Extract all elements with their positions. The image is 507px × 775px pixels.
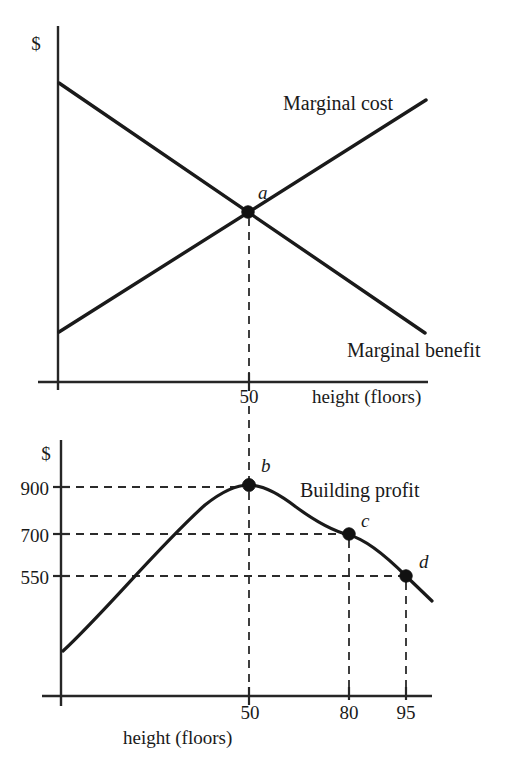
marginal-cost-label: Marginal cost <box>283 92 394 115</box>
building-profit-label: Building profit <box>300 479 420 502</box>
bottom-chart-panel: $ 900 700 550 b c d <box>21 440 433 749</box>
bottom-chart-tick-50-label: 50 <box>241 702 260 723</box>
top-chart-x-axis-caption: height (floors) <box>312 386 421 408</box>
top-chart-y-axis-unit: $ <box>31 33 41 54</box>
top-chart-tick-50-label: 50 <box>240 386 259 407</box>
bottom-chart-tick-550-label: 550 <box>21 567 50 588</box>
bottom-chart-y-axis-unit: $ <box>41 443 51 464</box>
building-profit-curve <box>63 485 432 651</box>
point-b-label: b <box>261 455 271 476</box>
point-c-dot <box>343 528 355 540</box>
point-a-dot <box>242 206 254 218</box>
point-b-dot <box>243 479 256 492</box>
point-a-label: a <box>258 182 268 203</box>
bottom-chart-tick-80-label: 80 <box>340 702 359 723</box>
figure-root: $ a 50 height (floors) Marginal cost Mar… <box>0 0 507 775</box>
bottom-chart-tick-700-label: 700 <box>21 525 50 546</box>
economics-diagram: $ a 50 height (floors) Marginal cost Mar… <box>0 0 507 775</box>
bottom-chart-x-axis-caption: height (floors) <box>123 727 232 749</box>
bottom-chart-tick-95-label: 95 <box>397 702 416 723</box>
point-d-dot <box>400 570 412 582</box>
bottom-chart-tick-900-label: 900 <box>21 478 50 499</box>
point-d-label: d <box>419 551 429 572</box>
point-c-label: c <box>361 510 370 531</box>
top-chart-panel: $ a 50 height (floors) Marginal cost Mar… <box>31 26 481 408</box>
marginal-benefit-label: Marginal benefit <box>347 339 481 362</box>
